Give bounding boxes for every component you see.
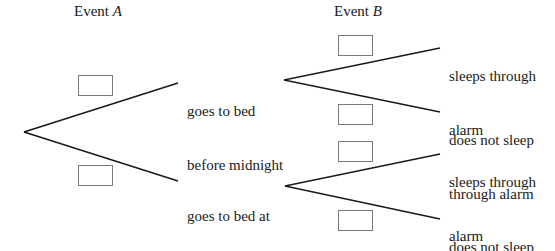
event-b-heading: Event B — [334, 3, 382, 20]
label-line: does not sleep — [449, 238, 534, 251]
prob-box-ml-sleeps-through[interactable] — [338, 141, 373, 162]
label-line: goes to bed — [187, 102, 283, 120]
tree-diagram: Event A Event B goes to bed before midni… — [0, 0, 555, 251]
event-a-heading: Event A — [74, 3, 122, 20]
prob-box-before-midnight[interactable] — [78, 75, 113, 96]
event-b-heading-text: Event — [334, 3, 373, 19]
event-a-variable: A — [113, 3, 122, 19]
prob-box-bm-not-sleep-through[interactable] — [338, 104, 373, 125]
label-line: sleeps through — [449, 173, 536, 191]
prob-box-bm-sleeps-through[interactable] — [338, 35, 373, 56]
label-line: goes to bed at — [187, 207, 288, 225]
outcome-ml-not-sleep-through: does not sleep through alarm — [449, 202, 534, 251]
event-a-heading-text: Event — [74, 3, 113, 19]
prob-box-midnight-or-later[interactable] — [78, 165, 113, 186]
outcome-midnight-or-later: goes to bed at midnight or later — [187, 171, 288, 251]
event-b-variable: B — [373, 3, 382, 19]
prob-box-ml-not-sleep-through[interactable] — [338, 210, 373, 231]
label-line: sleeps through — [449, 67, 536, 85]
